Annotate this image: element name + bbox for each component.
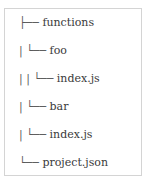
- tree-item-bar: | └── bar: [19, 98, 68, 116]
- tree-item-label: index.js: [57, 72, 100, 85]
- tree-item-label: foo: [50, 44, 67, 57]
- tree-item-foo-index-js: | | └── index.js: [19, 70, 100, 88]
- tree-branch-connector: ├──: [19, 16, 42, 29]
- tree-branch-connector: | | └──: [19, 72, 57, 85]
- tree-branch-connector: | └──: [19, 128, 50, 141]
- tree-item-foo: | └── foo: [19, 42, 67, 60]
- tree-item-label: functions: [42, 16, 94, 29]
- tree-branch-connector: | └──: [19, 44, 50, 57]
- tree-item-bar-index-js: | └── index.js: [19, 126, 93, 144]
- tree-item-label: index.js: [50, 128, 93, 141]
- file-tree-box: ├── functions | └── foo | | └── index.js…: [4, 8, 142, 176]
- tree-branch-connector: └──: [19, 156, 42, 169]
- tree-item-label: bar: [50, 100, 69, 113]
- tree-item-project-json: └── project.json: [19, 154, 108, 172]
- tree-branch-connector: | └──: [19, 100, 50, 113]
- tree-item-functions: ├── functions: [19, 14, 94, 32]
- tree-item-label: project.json: [42, 156, 108, 169]
